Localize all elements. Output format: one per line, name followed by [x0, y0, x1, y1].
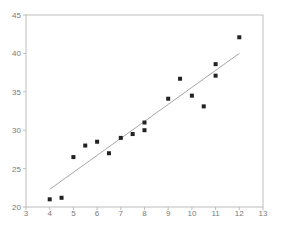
data-point [202, 104, 206, 108]
scatter-chart: 202530354045 345678910111213 [0, 0, 281, 233]
y-tick-label: 30 [12, 126, 21, 135]
plot-area [26, 15, 263, 207]
data-point [71, 155, 75, 159]
y-tick-label: 35 [12, 88, 21, 97]
data-point [143, 121, 147, 125]
data-point [83, 144, 87, 148]
x-tick-label: 13 [259, 209, 268, 218]
y-tick-label: 20 [12, 203, 21, 212]
data-point [60, 196, 64, 200]
x-tick-label: 7 [119, 209, 124, 218]
x-tick-label: 3 [24, 209, 29, 218]
x-tick-label: 9 [166, 209, 171, 218]
data-point [237, 35, 241, 39]
x-tick-label: 8 [142, 209, 147, 218]
data-point [119, 136, 123, 140]
data-point [178, 77, 182, 81]
y-tick-label: 45 [12, 11, 21, 20]
data-point [166, 97, 170, 101]
x-tick-label: 12 [235, 209, 244, 218]
y-axis: 202530354045 [12, 11, 26, 212]
data-point [190, 94, 194, 98]
data-point [48, 197, 52, 201]
x-tick-label: 4 [47, 209, 52, 218]
x-tick-label: 6 [95, 209, 100, 218]
data-point [95, 140, 99, 144]
y-tick-label: 25 [12, 165, 21, 174]
data-point [143, 128, 147, 132]
x-tick-label: 11 [211, 209, 220, 218]
x-tick-label: 5 [71, 209, 76, 218]
data-point [107, 151, 111, 155]
x-axis: 345678910111213 [24, 207, 268, 218]
x-tick-label: 10 [187, 209, 196, 218]
y-tick-label: 40 [12, 49, 21, 58]
data-point [214, 74, 218, 78]
data-point [214, 62, 218, 66]
data-point [131, 132, 135, 136]
